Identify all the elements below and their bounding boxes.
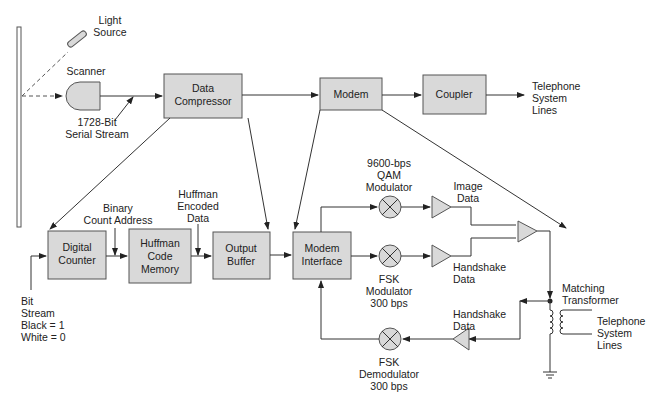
serial-stream-pointer: [115, 97, 133, 120]
light-beam: [22, 52, 68, 96]
bit-stream-label: BitStreamBlack = 1White = 0: [21, 295, 66, 343]
light-source-label: LightSource: [93, 14, 126, 38]
output-buffer-label: OutputBuffer: [225, 242, 257, 267]
modem-interface-label: ModemInterface: [302, 242, 343, 267]
handshake-data-tx-label: HandshakeData: [453, 261, 506, 285]
interface-to-qam: [321, 207, 377, 232]
telephone-lines-top-label: TelephoneSystemLines: [532, 80, 581, 116]
summing-amp-icon: [518, 221, 537, 242]
transformer-icon: [550, 301, 592, 372]
huffman-encoded-data-label: HuffmanEncodedData: [177, 188, 219, 224]
serial-stream-label: 1728-BitSerial Stream: [65, 116, 129, 140]
ground-icon: [543, 372, 557, 378]
compressor-to-buffer: [248, 118, 268, 229]
handshake-to-sum: [451, 238, 516, 256]
image-data-label: ImageData: [453, 180, 482, 204]
fax-block-diagram: LightSource Scanner 1728-BitSerial Strea…: [0, 0, 660, 402]
sum-to-transformer: [537, 231, 550, 298]
digital-counter-label: DigitalCounter: [58, 241, 96, 266]
fsk-modulator-label: FSKModulator300 bps: [366, 273, 413, 309]
bit-stream-line: [31, 256, 46, 290]
tap-to-receive-amp: [469, 301, 520, 339]
binary-count-address-label: BinaryCount Address: [84, 202, 153, 226]
handshake-amp-icon: [432, 245, 451, 267]
handshake-data-rx-label: HandshakeData: [453, 308, 506, 332]
scanner-icon: [66, 82, 100, 110]
qam-modulator-label: 9600-bpsQAMModulator: [366, 157, 413, 193]
image-amp-icon: [432, 196, 451, 218]
scanner-label: Scanner: [66, 65, 106, 77]
fsk-demodulator-icon: [379, 328, 401, 350]
fsk-demodulator-label: FSKDemodulator300 bps: [359, 356, 420, 392]
light-source-icon: [66, 30, 87, 48]
document-plate: [17, 27, 21, 227]
modem-to-interface: [295, 110, 320, 229]
qam-modulator-icon: [379, 196, 401, 218]
modem-label: Modem: [333, 88, 368, 100]
modem-to-transformer: [382, 110, 566, 228]
fsk-modulator-icon: [379, 245, 401, 267]
telephone-lines-bottom-label: TelephoneSystemLines: [597, 315, 646, 351]
image-to-sum: [451, 207, 516, 225]
coupler-label: Coupler: [436, 88, 473, 100]
matching-transformer-label: MatchingTransformer: [562, 282, 619, 306]
